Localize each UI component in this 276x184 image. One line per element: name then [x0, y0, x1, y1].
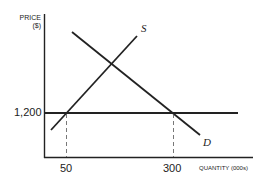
chart-canvas — [0, 0, 276, 184]
supply-label: S — [141, 22, 147, 34]
x-tick-300: 300 — [163, 162, 181, 174]
demand-curve — [72, 32, 200, 135]
x-tick-50: 50 — [60, 162, 72, 174]
x-axis-label: QUANTITY (000s) — [199, 164, 248, 172]
y-tick-1200: 1,200 — [14, 106, 42, 118]
y-axis-label: PRICE ($) — [14, 14, 41, 30]
y-axis-label-line2: ($) — [14, 22, 41, 30]
y-axis-label-line1: PRICE — [14, 14, 41, 22]
demand-label: D — [203, 136, 211, 148]
